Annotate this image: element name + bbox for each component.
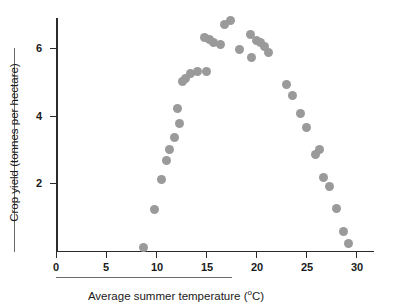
y-tick-6 — [50, 48, 56, 49]
data-point — [173, 104, 182, 113]
x-tick-30 — [356, 252, 357, 258]
x-tick-10 — [156, 252, 157, 258]
x-axis-title-rule — [56, 277, 232, 278]
x-tick-20 — [256, 252, 257, 258]
data-point — [150, 205, 159, 214]
scatter-chart: 6 4 2 0 5 10 15 20 25 30 Crop yield (ton… — [0, 0, 403, 305]
x-axis-line — [56, 251, 374, 253]
y-axis-title: Crop yield (tonnes per hectare) — [8, 35, 21, 251]
y-tick-4 — [50, 116, 56, 117]
x-axis-title-text: Average summer temperature (oC) — [88, 290, 264, 302]
data-point — [332, 204, 341, 213]
y-axis-line — [56, 18, 58, 252]
data-point — [264, 48, 273, 57]
x-tick-label-0: 0 — [46, 261, 66, 273]
y-tick-label-4: 4 — [32, 110, 46, 122]
data-point — [226, 16, 235, 25]
x-tick-0 — [56, 252, 57, 258]
data-point — [302, 123, 311, 132]
x-tick-25 — [306, 252, 307, 258]
data-point — [296, 109, 305, 118]
data-point — [288, 91, 297, 100]
y-tick-label-2: 2 — [32, 177, 46, 189]
data-point — [157, 175, 166, 184]
x-axis-title: Average summer temperature (oC) — [56, 286, 296, 303]
data-point — [319, 173, 328, 182]
data-point — [170, 133, 179, 142]
data-point — [175, 119, 184, 128]
y-axis-title-wrap: Crop yield (tonnes per hectare) — [2, 32, 22, 254]
data-point — [193, 67, 202, 76]
data-point — [165, 145, 174, 154]
x-tick-label-15: 15 — [196, 261, 218, 273]
y-tick-label-6: 6 — [32, 42, 46, 54]
x-tick-label-20: 20 — [246, 261, 268, 273]
data-point — [282, 80, 291, 89]
x-tick-label-5: 5 — [96, 261, 116, 273]
data-point — [344, 239, 353, 248]
data-point — [315, 145, 324, 154]
x-tick-label-10: 10 — [146, 261, 168, 273]
x-tick-15 — [206, 252, 207, 258]
data-point — [216, 40, 225, 49]
data-point — [325, 182, 334, 191]
data-point — [202, 67, 211, 76]
data-point — [235, 45, 244, 54]
x-tick-label-30: 30 — [346, 261, 368, 273]
data-point — [139, 243, 148, 252]
data-point — [247, 53, 256, 62]
x-tick-label-25: 25 — [296, 261, 318, 273]
y-tick-2 — [50, 183, 56, 184]
x-tick-5 — [106, 252, 107, 258]
data-point — [339, 227, 348, 236]
data-point — [162, 156, 171, 165]
